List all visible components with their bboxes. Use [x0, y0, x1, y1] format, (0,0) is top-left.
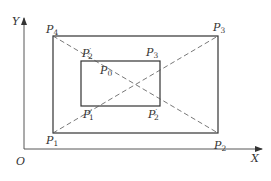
x-axis-label: X	[250, 152, 260, 165]
label-p1prime: P′1	[82, 108, 94, 122]
diagram-svg: Y X O P4 P3 P1 P2 P′2 P3 P′1 P′2 P0	[0, 0, 271, 181]
label-p2prime: P′2	[147, 108, 159, 122]
label-p4: P4	[45, 23, 58, 37]
origin-label: O	[16, 155, 25, 168]
label-p2: P2	[213, 139, 226, 153]
label-p2prime-top: P′2	[81, 47, 93, 61]
diagram-canvas: Y X O P4 P3 P1 P2 P′2 P3 P′1 P′2 P0	[0, 0, 271, 181]
inner-rectangle	[81, 61, 160, 106]
label-p1: P1	[45, 134, 58, 148]
label-p0: P0	[99, 64, 112, 78]
label-p3-outer: P3	[212, 21, 225, 35]
y-axis-label: Y	[12, 15, 21, 28]
label-p3-inner: P3	[145, 46, 158, 60]
